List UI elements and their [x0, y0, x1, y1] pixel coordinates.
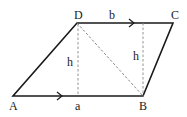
side-label-a: a: [75, 99, 81, 113]
vertex-label-d: D: [74, 8, 83, 22]
vertex-label-a: A: [9, 99, 18, 113]
side-label-b: b: [109, 8, 115, 22]
height-label-left: h: [67, 55, 73, 69]
parallelogram-diagram: A B C D a b h h: [0, 0, 187, 117]
parallelogram-outline: [13, 23, 173, 96]
height-label-right: h: [133, 49, 139, 63]
diagram-canvas: A B C D a b h h: [0, 0, 187, 117]
vertex-label-b: B: [139, 99, 147, 113]
vertex-label-c: C: [171, 8, 179, 22]
